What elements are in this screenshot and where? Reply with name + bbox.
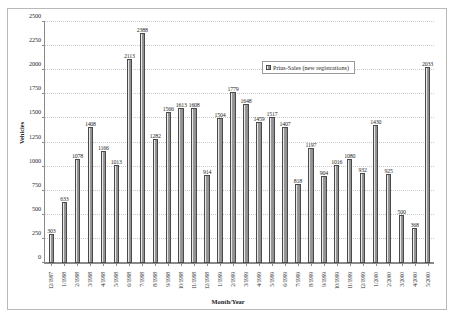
bar-slot: 14301/2000 <box>369 22 382 263</box>
y-axis-title: Vehicles <box>18 122 25 144</box>
bar-value-label: 904 <box>320 170 328 176</box>
x-tick-mark <box>207 263 208 266</box>
bar-slot: 8187/1999 <box>291 22 304 263</box>
bar[interactable]: 1166 <box>101 151 106 263</box>
x-tick-label: 9/1998 <box>165 272 171 287</box>
bar[interactable]: 904 <box>321 176 326 263</box>
x-tick-label: 6/1998 <box>126 272 132 287</box>
bar-slot: 16483/1999 <box>240 22 253 263</box>
x-tick-mark <box>168 263 169 266</box>
bar[interactable]: 818 <box>295 184 300 263</box>
bar-series: 30312/19976331/199810782/199814083/19981… <box>45 22 434 263</box>
bar[interactable]: 1430 <box>373 125 378 263</box>
x-tick-mark <box>233 263 234 266</box>
x-tick-mark <box>220 263 221 266</box>
bar[interactable]: 1078 <box>75 159 80 263</box>
bar[interactable]: 1282 <box>153 139 158 263</box>
x-tick-label: 2/1999 <box>230 272 236 287</box>
x-tick-label: 7/1998 <box>139 272 145 287</box>
x-tick-label: 2/1998 <box>74 272 80 287</box>
x-tick-mark <box>155 263 156 266</box>
bar[interactable]: 1080 <box>347 159 352 263</box>
x-tick-label: 10/1998 <box>178 272 184 289</box>
x-tick-label: 1/1999 <box>217 272 223 287</box>
y-tick-label: 2250 <box>29 36 41 43</box>
x-tick-label: 7/1999 <box>295 272 301 287</box>
x-tick-label: 6/1999 <box>282 272 288 287</box>
bar-value-label: 1282 <box>150 133 161 139</box>
bar[interactable]: 1566 <box>166 112 171 263</box>
chart-legend: Prius-Sales (new registrations) <box>262 61 355 74</box>
bar-slot: 17792/1999 <box>227 22 240 263</box>
bar[interactable]: 925 <box>386 174 391 263</box>
bar-value-label: 1078 <box>72 153 83 159</box>
bar-value-label: 1016 <box>331 159 342 165</box>
x-tick-mark <box>129 263 130 266</box>
legend-swatch-icon <box>266 65 271 70</box>
bar-value-label: 368 <box>410 222 418 228</box>
x-tick-mark <box>363 263 364 266</box>
x-tick-mark <box>337 263 338 266</box>
bar[interactable]: 633 <box>62 202 67 263</box>
bar[interactable]: 2113 <box>127 59 132 263</box>
x-tick-mark <box>402 263 403 266</box>
bar-value-label: 1407 <box>279 121 290 127</box>
bar[interactable]: 1613 <box>178 108 183 263</box>
bar[interactable]: 2388 <box>140 33 145 263</box>
bar-value-label: 500 <box>398 209 406 215</box>
x-tick-mark <box>298 263 299 266</box>
bar[interactable]: 368 <box>412 228 417 263</box>
bar-slot: 15669/1998 <box>162 22 175 263</box>
bar-slot: 11664/1998 <box>97 22 110 263</box>
bar[interactable]: 914 <box>204 175 209 263</box>
bar[interactable]: 303 <box>49 234 54 263</box>
bar-slot: 160811/1998 <box>188 22 201 263</box>
y-tick-label: 2500 <box>29 12 41 19</box>
x-tick-label: 4/2000 <box>412 272 418 287</box>
x-tick-label: 4/1999 <box>256 272 262 287</box>
bar[interactable]: 1408 <box>88 127 93 263</box>
bar[interactable]: 1016 <box>334 165 339 263</box>
bar-slot: 11978/1999 <box>304 22 317 263</box>
bar-slot: 161310/1998 <box>175 22 188 263</box>
bar[interactable]: 932 <box>360 173 365 263</box>
x-tick-mark <box>51 263 52 266</box>
x-tick-mark <box>181 263 182 266</box>
bar[interactable]: 1197 <box>308 148 313 263</box>
x-tick-label: 8/1999 <box>308 272 314 287</box>
x-tick-label: 5/1999 <box>269 272 275 287</box>
bar-slot: 23887/1998 <box>136 22 149 263</box>
x-tick-label: 4/1998 <box>100 272 106 287</box>
bar[interactable]: 1407 <box>282 127 287 263</box>
y-tick-label: 1500 <box>29 108 41 115</box>
x-tick-label: 5/2000 <box>425 272 431 287</box>
x-tick-label: 8/1998 <box>152 272 158 287</box>
x-tick-mark <box>285 263 286 266</box>
bar[interactable]: 500 <box>399 215 404 263</box>
x-tick-mark <box>272 263 273 266</box>
bar-slot: 3684/2000 <box>408 22 421 263</box>
x-tick-mark <box>259 263 260 266</box>
bar[interactable]: 1648 <box>243 104 248 263</box>
x-tick-mark <box>389 263 390 266</box>
bar[interactable]: 1608 <box>191 108 196 263</box>
bar-value-label: 1197 <box>305 142 316 148</box>
bar-slot: 14594/1999 <box>253 22 266 263</box>
bar-slot: 9049/1999 <box>317 22 330 263</box>
bar[interactable]: 2033 <box>425 67 430 263</box>
bar[interactable]: 1517 <box>269 117 274 263</box>
bar-value-label: 1608 <box>189 102 200 108</box>
bar-value-label: 633 <box>60 196 68 202</box>
bar[interactable]: 1504 <box>217 118 222 263</box>
bar[interactable]: 1013 <box>114 165 119 263</box>
bar-slot: 14076/1999 <box>278 22 291 263</box>
bar-value-label: 2033 <box>422 61 433 67</box>
x-tick-label: 3/1999 <box>243 272 249 287</box>
bar-value-label: 303 <box>47 228 55 234</box>
bar[interactable]: 1779 <box>230 92 235 263</box>
y-tick-label: 500 <box>32 204 41 211</box>
bar[interactable]: 1459 <box>256 122 261 263</box>
y-tick-label: 250 <box>32 228 41 235</box>
bar-slot: 5003/2000 <box>395 22 408 263</box>
bar-value-label: 1166 <box>98 145 109 151</box>
